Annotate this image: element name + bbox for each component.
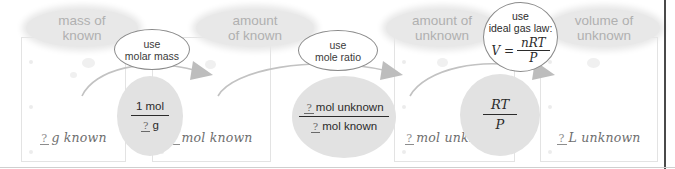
fraction-denominator: ?g: [131, 116, 169, 133]
handwritten-quantity-mass-known: ?g known: [22, 130, 125, 145]
unit-label: L unknown: [569, 130, 641, 145]
blank-value: ?: [141, 121, 150, 132]
equation-lhs: V =: [491, 45, 514, 57]
unit-label: g known: [51, 130, 106, 145]
paper-smudge: [82, 58, 95, 68]
unit-label: g: [152, 119, 158, 131]
ideal-gas-law-equation: V = nRT P: [489, 37, 553, 64]
label-line-2: of known: [228, 28, 282, 43]
fraction-numerator: ?mol unknown: [299, 100, 388, 117]
operation-line-2: ideal gas law:: [489, 22, 553, 34]
fraction-molar-mass: 1 mol ?g: [131, 99, 169, 133]
fraction-denominator: ?mol known: [299, 117, 388, 134]
card-volume-of-unknown: ?L unknown: [540, 37, 658, 162]
unit-label: mol known: [182, 130, 253, 145]
handwritten-quantity-volume-unknown: ?L unknown: [541, 130, 657, 145]
punch-hole-icon: [29, 150, 33, 154]
paper-smudge: [70, 72, 77, 78]
operation-line-1: use: [125, 38, 179, 50]
blank-value: ?: [405, 133, 414, 145]
unit-label: mol known: [322, 120, 377, 132]
card-mass-of-known: ?g known: [21, 37, 126, 162]
fraction-numerator: 1 mol: [131, 99, 169, 116]
operation-line-1: use: [489, 10, 553, 22]
equation-fraction: nRT P: [517, 37, 550, 64]
paper-smudge: [437, 58, 448, 67]
blank-value: ?: [40, 133, 49, 145]
punch-hole-icon: [548, 105, 552, 109]
operation-use-ideal-gas-law: use ideal gas law: V = nRT P: [483, 2, 558, 72]
fraction-numerator: RT: [483, 97, 517, 115]
label-line-2: unknown: [412, 28, 472, 43]
page-bottom-rule: [0, 167, 675, 168]
label-amount-of-unknown: amount of unknown: [386, 9, 498, 47]
punch-hole-icon: [29, 60, 33, 64]
stoichiometry-roadmap-diagram: ?g known ?mol known ?mol unknown ?L unkn…: [0, 0, 675, 169]
fraction-rt-over-p: RT P: [483, 97, 517, 133]
equation-denominator: P: [517, 51, 550, 64]
label-line-2: unknown: [575, 28, 634, 43]
label-line-1: volume of: [575, 13, 634, 28]
operation-use-molar-mass: use molar mass: [114, 29, 190, 70]
label-amount-of-known: amount of known: [196, 9, 314, 47]
blank-value: ?: [557, 133, 566, 145]
paper-smudge: [587, 58, 600, 68]
label-volume-of-unknown: volume of unknown: [548, 9, 660, 47]
punch-hole-icon: [402, 105, 406, 109]
operation-line-1: use: [315, 39, 361, 51]
label-line-2: known: [58, 28, 105, 43]
operation-use-mole-ratio: use mole ratio: [298, 30, 378, 71]
conversion-factor-molar-mass: 1 mol ?g: [117, 76, 183, 156]
fraction-mole-ratio: ?mol unknown ?mol known: [299, 100, 388, 134]
unit-label: mol unknown: [316, 101, 384, 113]
label-line-1: amount of: [412, 13, 472, 28]
paper-smudge: [205, 60, 216, 69]
page-right-rule: [664, 0, 666, 169]
punch-hole-icon: [402, 150, 406, 154]
punch-hole-icon: [548, 150, 552, 154]
conversion-factor-mole-ratio: ?mol unknown ?mol known: [292, 76, 396, 158]
blank-value: ?: [311, 122, 320, 133]
operation-line-2: mole ratio: [315, 51, 361, 63]
equation-numerator: nRT: [517, 37, 550, 51]
fraction-denominator: P: [483, 115, 517, 133]
operation-line-2: molar mass: [125, 50, 179, 62]
label-line-1: amount: [228, 13, 282, 28]
conversion-factor-ideal-gas: RT P: [460, 74, 540, 156]
blank-value: ?: [304, 103, 313, 114]
label-line-1: mass of: [58, 13, 105, 28]
punch-hole-icon: [402, 60, 406, 64]
punch-hole-icon: [29, 105, 33, 109]
